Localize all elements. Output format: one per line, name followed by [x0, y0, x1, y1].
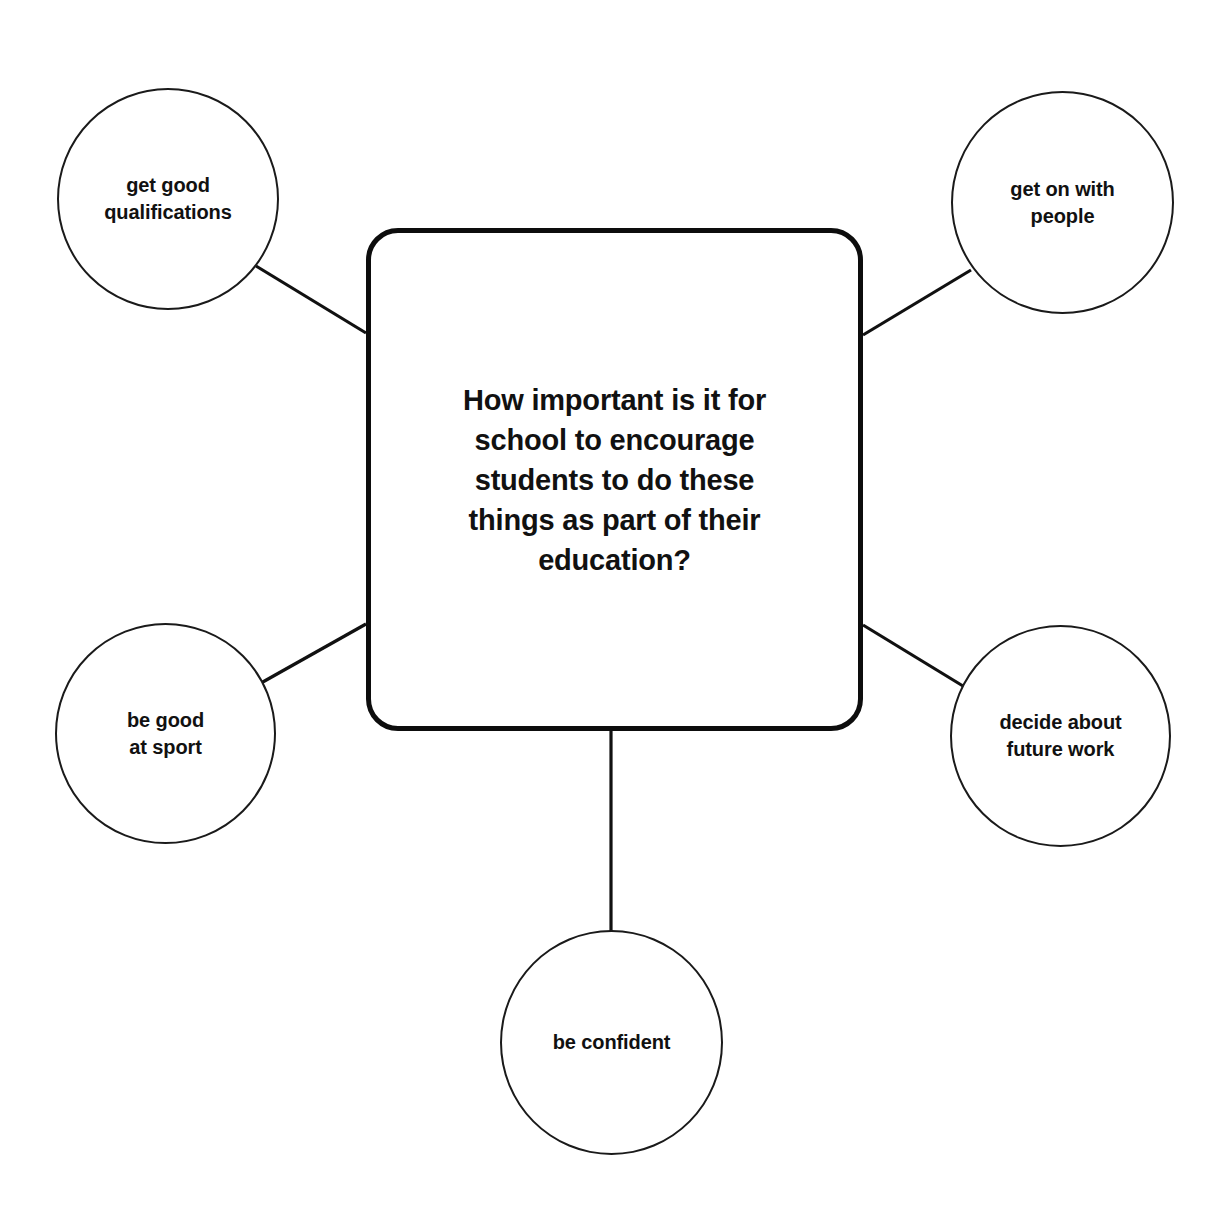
branch-label-confident: be confident [541, 1029, 683, 1056]
branch-node-confident[interactable]: be confident [500, 930, 723, 1155]
branch-node-people[interactable]: get on with people [951, 91, 1174, 314]
connector-center-to-sport [261, 624, 366, 683]
branch-label-people: get on with people [998, 176, 1126, 230]
branch-label-future-work: decide about future work [987, 709, 1133, 763]
connector-center-to-qualifications [256, 266, 366, 333]
connector-center-to-futurework [863, 625, 963, 686]
connector-center-to-people [863, 270, 971, 335]
central-question-text: How important is it for school to encour… [435, 380, 794, 580]
branch-label-sport: be good at sport [115, 707, 216, 761]
branch-label-qualifications: get good qualifications [92, 172, 244, 226]
mind-map-diagram: get good qualifications get on with peop… [0, 0, 1226, 1217]
central-question-node[interactable]: How important is it for school to encour… [366, 228, 863, 731]
branch-node-sport[interactable]: be good at sport [55, 623, 276, 844]
branch-node-future-work[interactable]: decide about future work [950, 625, 1171, 847]
branch-node-qualifications[interactable]: get good qualifications [57, 88, 279, 310]
